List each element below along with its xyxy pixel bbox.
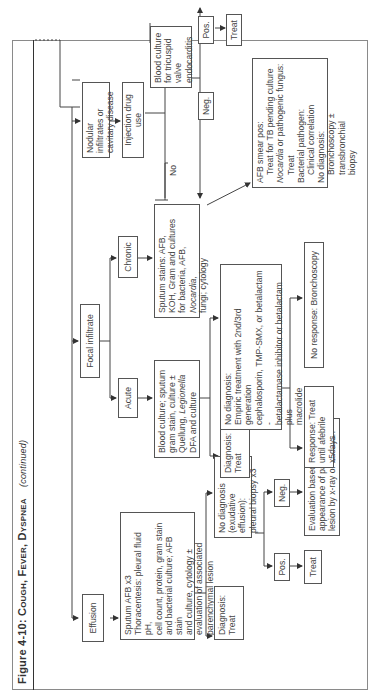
rotated-page: Figure 4-10: Cough, Fever, Dyspnea (cont… [0,0,379,698]
text-line: Blood culture; sputum [157,365,167,453]
node-biopsy-pos: Pos. [274,553,290,581]
text-line: cephalosporin, TMP-SMX, or betalactam - [254,269,274,425]
text: Treat [308,557,318,577]
text: Pos. [201,21,211,38]
text-line: Treat for TB pending culture [265,63,275,183]
node-focal-infiltrate: Focal infiltrate [80,304,100,378]
node-acute-workup: Blood culture; sputum gram stain, cultur… [154,360,200,458]
text-line: gram stain, culture ± [167,365,177,453]
text-line: KOH, Gram and cultures [167,209,177,313]
text-line: No diagnosis: [316,63,326,183]
text: Neg. [201,97,211,115]
node-chronic-results: AFB smear pos: Treat for TB pending cult… [252,58,328,188]
text: Acute [123,387,133,409]
text-italic: Nocardia, [188,276,198,313]
node-endocarditis-treat: Treat [226,14,242,46]
text: Nodular infiltrates or cavitary disease [85,91,115,153]
text: Injection drug use [123,87,143,153]
node-acute: Acute [118,378,138,418]
text: Diagnosis: Treat [223,433,243,473]
node-endocarditis-pos: Pos. [198,16,214,44]
text-line: cell count, protein, gram stain [154,517,164,635]
text-line: AFB smear pos: [255,63,265,183]
text-line: Sputum stains: AFB, [157,209,167,313]
node-nodular-infiltrates: Nodular infiltrates or cavitary disease [82,82,110,158]
text-line: Sputum AFB x3 [123,517,133,635]
text-line: No diagnosis: [223,269,233,425]
node-biopsy-treat: Treat [304,550,322,584]
node-acute-diagnosis: Diagnosis: Treat [220,428,250,478]
node-injection-drug-use: Injection drug use [122,82,144,158]
text: No response: Bronchoscopy [309,251,319,359]
node-response: Response: Treat until afebrile x5days [304,386,334,468]
text-line: betalactamase inhibitor or betalactam pl… [274,269,294,425]
text-line: evaluation of associated [194,517,204,635]
node-blood-culture-endocarditis: Blood culture for tricuspid valve endoca… [150,26,192,88]
node-acute-no-diagnosis: No diagnosis: Empiric treatment with 2nd… [220,264,282,430]
text-line: for bacteria, AFB, [177,247,187,313]
text: Blood culture for tricuspid valve endoca… [153,33,194,83]
node-effusion-workup: Sputum AFB x3 Thoracentesis: pleural flu… [120,512,195,640]
node-biopsy-neg: Neg. [274,479,290,507]
node-effusion: Effusion [82,594,104,642]
text-italic: Nocardia [275,149,285,183]
text-line: Quellung, [177,414,187,453]
text-line: Bacterial pathogen: [296,63,306,183]
text-line: Clinical correlation [306,63,316,183]
node-chronic: Chronic [118,236,138,278]
text: Treat [229,20,239,40]
text: Chronic [123,242,133,272]
node-effusion-text: Effusion [88,603,98,634]
node-chronic-workup: Sputum stains: AFB, KOH, Gram and cultur… [154,204,200,318]
text-line: or pathogenic fungus: [275,64,285,149]
node-endocarditis-neg: Neg. [198,92,214,120]
text-line: fungi; cytology [198,209,208,313]
node-no-response: No response: Bronchoscopy [304,242,324,368]
edge-label-no: No [168,165,178,176]
text-line: and culture, cytology ± [184,517,194,635]
text-line: and bacterial culture; AFB stain [164,517,184,635]
node-effusion-diagnosis: Diagnosis: Treat [214,586,244,640]
text: Focal infiltrate [85,314,95,368]
text-line: Empiric treatment with 2nd/3rd generatio… [233,269,253,425]
text-line: biopsy [347,63,357,183]
text-line: Thoracentesis: pleural fluid pH, [133,517,153,635]
text: Neg. [277,484,287,502]
text-line: Bronchoscopy ± transbronchial [326,63,346,183]
text-line: Treat [286,63,296,183]
text: Pos. [277,558,287,575]
text: Diagnosis: Treat [217,595,237,635]
text-italic: Legionella [177,375,187,414]
text: Response: Treat until afebrile x5days [307,400,337,463]
text-line: DFA and culture [188,365,198,453]
